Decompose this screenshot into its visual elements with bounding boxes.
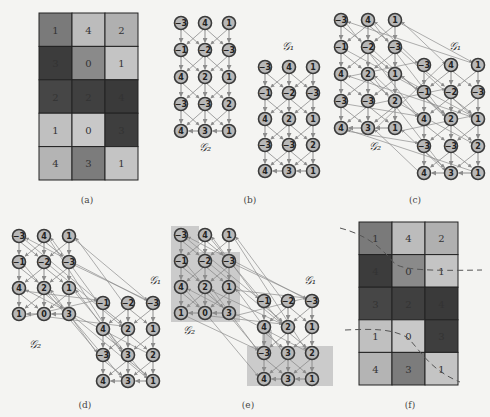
grid-f-cell-value: 1 — [372, 331, 378, 342]
g2-b-node-value: 1 — [226, 73, 232, 82]
grid-a-cell-value: 1 — [118, 58, 124, 69]
g2-d-node-value: 4 — [16, 284, 22, 293]
g2-d-node-value: 1 — [66, 284, 72, 293]
g2-d-node-value: −2 — [38, 258, 50, 267]
g1-d-node-value: 2 — [125, 325, 131, 334]
grid-a-cell-value: 2 — [85, 92, 91, 103]
g2-e-node-value: 1 — [178, 309, 184, 318]
g2-b-node-value: 2 — [226, 100, 232, 109]
g1-b-node-value: 1 — [310, 115, 316, 124]
g2-c-node-value: 1 — [392, 70, 398, 79]
g1-b-node-value: −2 — [283, 89, 295, 98]
graph-label-g2-d: 𝒢₂ — [29, 338, 41, 351]
g2-c-node-value: −2 — [362, 43, 374, 52]
grid-f-cell-value: 4 — [372, 266, 378, 277]
g1-d-node-value: −1 — [97, 299, 110, 308]
g2-b-node-value: 3 — [202, 127, 208, 136]
grid-a-cell-value: 4 — [85, 25, 91, 36]
g2-e-node-value: 1 — [226, 231, 232, 240]
g2-b-node-value: −1 — [175, 46, 188, 55]
g2-c-node-value: 1 — [392, 124, 398, 133]
g1-c-node-value: 4 — [421, 169, 427, 178]
g2-d-node-value: −3 — [63, 258, 75, 267]
grid-a-cell-value: 1 — [52, 125, 58, 136]
caption-c: (c) — [409, 195, 421, 205]
g1-d-node-value: −3 — [147, 299, 159, 308]
g2-e-node-value: 1 — [226, 283, 232, 292]
grid-f-cell-value: 1 — [438, 266, 444, 277]
g1-d-node-value: 4 — [100, 325, 106, 334]
g1-d-node-value: 2 — [150, 351, 156, 360]
g2-c-node-value: 3 — [365, 124, 371, 133]
g1-e-node-value: 2 — [285, 323, 291, 332]
g2-d-node-value: 2 — [41, 284, 47, 293]
grid-a-cell-value: 0 — [85, 125, 91, 136]
caption-e: (e) — [242, 400, 254, 410]
figure-canvas: 142301224103431 (a) −341−1−2−3421−3−3243… — [0, 0, 490, 417]
g2-c-node-value: 2 — [365, 70, 371, 79]
graph-label-g1-e: 𝒢₁ — [304, 274, 316, 287]
g1-c-node-value: −2 — [445, 88, 457, 97]
grid-a-cell-value: 1 — [118, 158, 124, 169]
grid-a-cell-value: 2 — [52, 92, 58, 103]
g1-b-node-value: 2 — [286, 115, 292, 124]
g1-c-node-value: 2 — [475, 142, 481, 151]
g2-d-node-value: 1 — [66, 232, 72, 241]
g2-e-node-value: −1 — [175, 257, 188, 266]
g1-b-node-value: −3 — [259, 63, 271, 72]
grid-f-cell-value: 4 — [372, 364, 378, 375]
g1-d-node-value: 1 — [150, 377, 156, 386]
g2-e-node-value: −3 — [175, 231, 187, 240]
g1-c-node-value: −3 — [472, 88, 484, 97]
g1-d-node-value: 4 — [100, 377, 106, 386]
g1-b-node-value: 2 — [310, 141, 316, 150]
panel-f: 142401324103431 — [359, 222, 458, 385]
g2-d-node-value: −3 — [13, 232, 25, 241]
g1-c-node-value: 2 — [448, 115, 454, 124]
g1-b-node-value: −3 — [259, 141, 271, 150]
g2-b-node-value: −3 — [223, 46, 235, 55]
g1-c-node-value: −3 — [445, 142, 457, 151]
caption-b: (b) — [244, 195, 257, 205]
grid-a-cell-value: 4 — [52, 158, 58, 169]
g2-e-node-value: 2 — [202, 283, 208, 292]
g2-d-node-value: 1 — [16, 310, 22, 319]
g2-b-node-value: −3 — [199, 100, 211, 109]
g1-b-node-value: 4 — [262, 167, 268, 176]
g1-e-node-value: 2 — [309, 349, 315, 358]
g2-e-node-value: −3 — [223, 257, 235, 266]
g1-b-node-value: 4 — [286, 63, 292, 72]
g1-e-node-value: −2 — [282, 297, 294, 306]
grid-f-cell-value: 3 — [438, 331, 444, 342]
g2-d-node-value: −1 — [13, 258, 26, 267]
g1-b-node-value: 1 — [310, 167, 316, 176]
g2-b-node-value: 4 — [178, 73, 184, 82]
g1-e-node-value: 1 — [309, 375, 315, 384]
g1-b-node-value: −1 — [259, 89, 272, 98]
g2-e-node-value: −2 — [199, 257, 211, 266]
g2-c-node-value: −1 — [335, 43, 348, 52]
graph-label-g1-d: 𝒢₁ — [149, 274, 161, 287]
g2-b-node-value: −3 — [175, 100, 187, 109]
g1-e-node-value: 4 — [261, 375, 267, 384]
g1-c-node-value: 3 — [448, 169, 454, 178]
g2-e-node-value: 0 — [202, 309, 208, 318]
panel-b: −341−1−2−3421−3−32431−341−1−2−3421−3−324… — [175, 17, 320, 178]
g1-b-node-value: 1 — [310, 63, 316, 72]
grid-a-cell-value: 3 — [52, 58, 58, 69]
grid-a-cell-value: 0 — [85, 58, 91, 69]
grid-f-cell-value: 2 — [438, 233, 444, 244]
g2-d-node-value: 3 — [66, 310, 72, 319]
g1-e-node-value: 3 — [285, 375, 291, 384]
caption-d: (d) — [79, 400, 92, 410]
g2-e-node-value: 3 — [226, 309, 232, 318]
g2-c-node-value: 4 — [365, 16, 371, 25]
g1-c-node-value: 1 — [475, 169, 481, 178]
g1-d-node-value: 3 — [125, 377, 131, 386]
g1-b-node-value: −3 — [307, 89, 319, 98]
grid-f-cell-value: 3 — [405, 364, 411, 375]
g2-b-node-value: 4 — [178, 127, 184, 136]
g2-b-node-value: −3 — [175, 19, 187, 28]
g2-c-node-value: −3 — [335, 16, 347, 25]
grid-a-cell-value: 3 — [118, 125, 124, 136]
